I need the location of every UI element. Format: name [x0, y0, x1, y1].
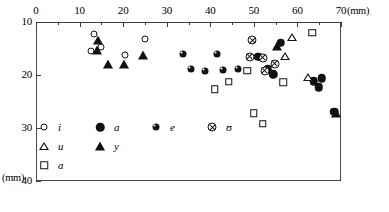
x-tick-minor	[319, 22, 320, 25]
y-tick-label: 10	[6, 16, 32, 27]
x-tick-label: 60	[282, 5, 312, 16]
legend-marker-y-icon	[95, 142, 105, 151]
x-tick-minor	[145, 22, 146, 25]
data-point-y	[119, 60, 129, 69]
x-tick	[297, 22, 298, 27]
legend-marker-a-icon	[96, 123, 105, 132]
data-point-A	[211, 86, 219, 94]
data-point-U	[258, 53, 267, 62]
data-point-U	[260, 66, 269, 75]
legend-label: ʊ	[226, 119, 232, 136]
data-point-A	[308, 29, 316, 37]
x-tick-label: 50	[239, 5, 269, 16]
data-point-y	[103, 59, 113, 68]
legend-marker-i-icon	[41, 124, 48, 131]
scatter-chart: 01020304050607010203040 (mm) (mm) iaeʊuy…	[0, 0, 389, 212]
data-point-e	[220, 66, 227, 73]
x-tick-minor	[101, 22, 102, 25]
x-tick-minor	[189, 22, 190, 25]
legend-marker-A-icon	[40, 161, 48, 169]
data-point-A	[225, 78, 233, 86]
data-point-i	[121, 51, 128, 58]
data-point-A	[280, 79, 288, 87]
x-tick	[123, 22, 124, 27]
x-tick-minor	[58, 22, 59, 25]
data-point-y	[138, 51, 148, 60]
data-point-y	[272, 41, 282, 50]
data-point-A	[259, 120, 267, 128]
y-tick	[36, 22, 41, 23]
x-tick-label: 30	[152, 5, 182, 16]
legend-label: ɑ	[58, 157, 64, 174]
x-tick	[80, 22, 81, 27]
data-point-e	[180, 51, 187, 58]
x-tick-label: 20	[108, 5, 138, 16]
x-tick	[210, 22, 211, 27]
data-point-U	[270, 59, 279, 68]
data-point-e	[235, 66, 242, 73]
data-point-U	[245, 52, 254, 61]
legend-label: a	[114, 119, 120, 136]
x-tick-label: 40	[195, 5, 225, 16]
x-tick	[341, 22, 342, 27]
data-point-e	[187, 65, 194, 72]
x-tick-minor	[276, 22, 277, 25]
data-point-e	[202, 68, 209, 75]
data-point-y	[92, 46, 102, 55]
legend-row: iaeʊ	[44, 118, 254, 137]
x-tick-label: 10	[65, 5, 95, 16]
data-point-u	[287, 33, 297, 41]
x-tick	[254, 22, 255, 27]
data-point-u	[280, 52, 290, 60]
x-tick-minor	[232, 22, 233, 25]
data-point-i	[141, 36, 148, 43]
legend-label: y	[114, 138, 119, 155]
data-point-A	[244, 67, 252, 75]
data-point-y	[331, 109, 341, 118]
legend-row: uy	[44, 137, 254, 156]
legend-label: i	[58, 119, 61, 136]
legend-marker-U-icon	[208, 123, 217, 132]
legend-marker-e-icon	[153, 124, 160, 131]
legend-label: u	[58, 138, 64, 155]
chart-legend: iaeʊuyɑ	[44, 118, 254, 175]
y-tick	[36, 75, 41, 76]
legend-row: ɑ	[44, 156, 254, 175]
data-point-A	[250, 109, 258, 117]
y-tick-label: 20	[6, 69, 32, 80]
y-tick-label: 30	[6, 122, 32, 133]
data-point-a	[315, 83, 324, 92]
data-point-U	[248, 36, 257, 45]
data-point-y	[93, 36, 103, 45]
y-tick	[36, 181, 41, 182]
data-point-u	[303, 73, 313, 81]
x-tick	[167, 22, 168, 27]
x-axis-unit-label: (mm)	[347, 5, 369, 16]
y-axis-unit-label: (mm)	[2, 172, 24, 183]
legend-marker-u-icon	[39, 142, 49, 150]
data-point-a	[318, 74, 327, 83]
legend-label: e	[170, 119, 175, 136]
data-point-a	[269, 70, 278, 79]
data-point-e	[213, 50, 220, 57]
